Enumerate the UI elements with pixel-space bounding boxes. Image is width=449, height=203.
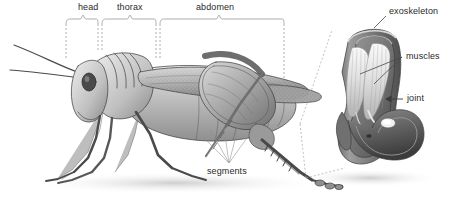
label-muscles: muscles — [406, 51, 440, 61]
label-exoskeleton: exoskeleton — [389, 6, 438, 16]
leader-exoskeleton — [374, 16, 386, 28]
compound-eye — [82, 73, 96, 91]
label-segments: segments — [207, 166, 247, 176]
label-abdomen: abdomen — [196, 2, 234, 12]
head-capsule — [71, 60, 108, 122]
magnification-connector — [300, 30, 345, 178]
antennae — [10, 45, 80, 78]
joint-pivot — [381, 118, 396, 128]
label-thorax: thorax — [117, 2, 143, 12]
label-joint: joint — [407, 93, 424, 103]
figure-canvas: head thorax abdomen segments exoskeleton… — [0, 0, 449, 203]
brace-head — [66, 15, 98, 58]
label-head: head — [78, 2, 98, 12]
grasshopper-illustration — [10, 45, 343, 190]
